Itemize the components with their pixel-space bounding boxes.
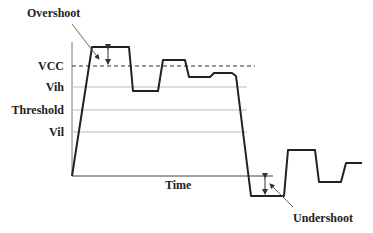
threshold-label: Threshold xyxy=(0,104,64,116)
undershoot-label: Undershoot xyxy=(293,212,353,224)
signal-integrity-diagram: Overshoot VCC Vih Threshold Vil Time Und… xyxy=(0,0,373,233)
signal-waveform xyxy=(72,47,362,196)
vcc-label: VCC xyxy=(0,60,64,72)
overshoot-label: Overshoot xyxy=(27,7,80,19)
time-label: Time xyxy=(165,179,191,191)
vih-label: Vih xyxy=(0,81,64,93)
vil-label: Vil xyxy=(0,126,64,138)
overshoot-pointer-arrow xyxy=(72,24,99,59)
